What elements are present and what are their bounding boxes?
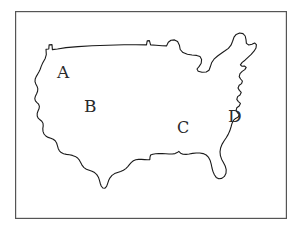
region-label-d: D bbox=[228, 108, 242, 125]
page-background bbox=[0, 0, 300, 233]
region-label-a: A bbox=[57, 64, 69, 81]
figure-root: A B C D bbox=[0, 0, 300, 233]
region-label-c: C bbox=[177, 120, 189, 136]
map-figure-svg bbox=[0, 0, 300, 233]
region-label-b: B bbox=[84, 98, 97, 115]
